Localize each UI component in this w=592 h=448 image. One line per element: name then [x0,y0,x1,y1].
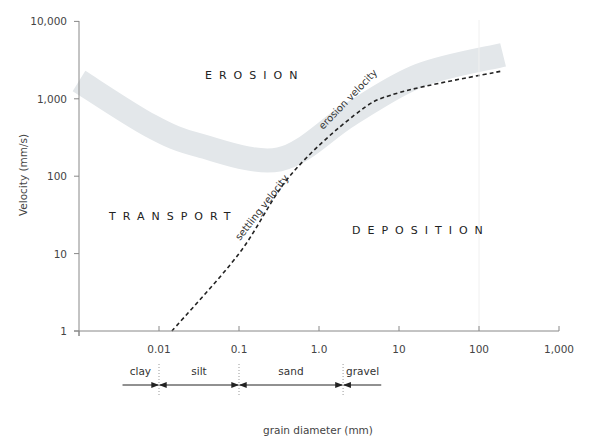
x-tick-label: 0.1 [231,343,248,355]
region-label-transport: TRANSPORT [108,210,238,223]
y-axis-title: Velocity (mm/s) [17,134,29,216]
grain-size-classes: claysiltsandgravel [123,364,382,397]
x-tick-label: 1.0 [311,343,328,355]
grain-class-label-gravel: gravel [346,365,379,377]
y-tick-label: 1,000 [37,93,67,105]
x-tick-label: 1,000 [544,343,574,355]
y-tick-label: 1 [60,325,67,337]
grain-class-label-silt: silt [191,365,206,377]
settling-velocity-label: settling velocity [233,173,291,243]
y-tick-label: 100 [47,170,67,182]
grain-class-label-clay: clay [130,365,151,377]
x-tick-label: 0.01 [147,343,170,355]
x-axis-ticks: 0.010.11.0101001,000 [79,326,574,355]
x-tick-label: 10 [392,343,405,355]
region-label-erosion: EROSION [205,69,304,82]
x-axis-title: grain diameter (mm) [263,424,373,436]
y-tick-label: 10 [54,248,67,260]
region-label-deposition: DEPOSITION [352,224,490,237]
x-tick-label: 100 [469,343,489,355]
grain-class-label-sand: sand [278,365,303,377]
y-tick-label: 10,000 [30,15,67,27]
y-axis-ticks: 1101001,00010,000 [30,15,79,337]
hjulstrom-chart: 1101001,00010,000 0.010.11.0101001,000 V… [0,0,592,448]
